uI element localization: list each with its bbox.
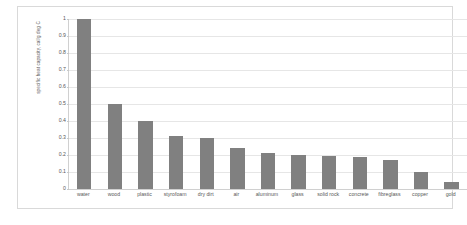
chart-frame: specific heat capacity, cal/g deg C 10.9… bbox=[17, 6, 453, 209]
bar-slot bbox=[222, 19, 253, 189]
bar bbox=[200, 138, 214, 189]
bar-slot bbox=[253, 19, 284, 189]
bar-slot bbox=[191, 19, 222, 189]
bar bbox=[322, 156, 336, 189]
y-axis-title: specific heat capacity, cal/g deg C bbox=[36, 0, 41, 123]
x-axis-tick-label: concrete bbox=[343, 191, 374, 197]
x-axis-tick-labels: waterwoodplasticstyrofoamdry dirtairalum… bbox=[68, 191, 466, 197]
x-axis-tick-label: water bbox=[68, 191, 99, 197]
x-axis-tick-label: solid rock bbox=[313, 191, 344, 197]
bar-slot bbox=[344, 19, 375, 189]
x-axis-tick-label: fibreglass bbox=[374, 191, 405, 197]
y-axis-tick-label: 0.9 bbox=[42, 33, 66, 38]
y-axis-tickmark bbox=[67, 189, 69, 190]
bar-slot bbox=[314, 19, 345, 189]
bar-slot bbox=[161, 19, 192, 189]
bar bbox=[230, 148, 244, 189]
x-axis-tick-label: glass bbox=[282, 191, 313, 197]
y-axis-tick-label: 0.8 bbox=[42, 50, 66, 55]
x-axis-tick-label: air bbox=[221, 191, 252, 197]
bar bbox=[138, 121, 152, 189]
bar bbox=[261, 153, 275, 189]
bar-slot bbox=[406, 19, 437, 189]
bar-series bbox=[69, 19, 467, 189]
bar-slot bbox=[283, 19, 314, 189]
y-axis-tick-label: 0.4 bbox=[42, 118, 66, 123]
y-axis-tick-labels: 10.90.80.70.60.50.40.30.20.10 bbox=[42, 19, 66, 189]
bar bbox=[291, 155, 305, 189]
x-axis-tick-label: copper bbox=[405, 191, 436, 197]
y-axis-tick-label: 0.5 bbox=[42, 101, 66, 106]
y-axis-tick-label: 0.7 bbox=[42, 67, 66, 72]
bar bbox=[414, 172, 428, 189]
y-axis-tick-label: 0.3 bbox=[42, 135, 66, 140]
bar bbox=[353, 157, 367, 189]
y-axis-tick-label: 1 bbox=[42, 16, 66, 21]
bar-slot bbox=[436, 19, 467, 189]
bar bbox=[77, 19, 91, 189]
bar bbox=[108, 104, 122, 189]
bar-slot bbox=[100, 19, 131, 189]
y-axis-tick-label: 0.6 bbox=[42, 84, 66, 89]
x-axis-tick-label: styrofoam bbox=[160, 191, 191, 197]
y-axis-tick-label: 0.1 bbox=[42, 169, 66, 174]
x-axis-tick-label: dry dirt bbox=[190, 191, 221, 197]
x-axis-tick-label: wood bbox=[99, 191, 130, 197]
bar bbox=[444, 182, 458, 189]
bar-slot bbox=[69, 19, 100, 189]
y-axis-tick-label: 0.2 bbox=[42, 152, 66, 157]
x-axis-tick-label: plastic bbox=[129, 191, 160, 197]
bar bbox=[169, 136, 183, 189]
x-axis-tick-label: gold bbox=[435, 191, 466, 197]
bar bbox=[383, 160, 397, 189]
bar-slot bbox=[130, 19, 161, 189]
plot-area bbox=[68, 19, 467, 190]
bar-slot bbox=[375, 19, 406, 189]
x-axis-tick-label: aluminum bbox=[252, 191, 283, 197]
y-axis-tick-label: 0 bbox=[42, 186, 66, 191]
